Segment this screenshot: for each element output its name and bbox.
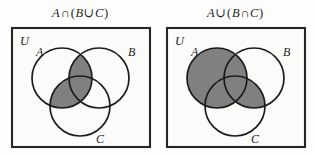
venn-diagram-figure: A∩(B∪C) [0, 0, 316, 154]
title-paren-close: ) [104, 6, 109, 20]
venn-canvas-left: U A B C [10, 26, 152, 149]
title-operator-union: ∪ [83, 6, 95, 20]
panel-title-right: A∪(B∩C) [207, 0, 264, 26]
title-term-a: A [52, 6, 60, 20]
label-universe: U [20, 34, 30, 48]
panel-title-left: A∩(B∪C) [52, 0, 109, 26]
venn-canvas-right: U A B C [165, 26, 307, 149]
label-c: C [96, 132, 105, 146]
title-term-a: A [207, 6, 215, 20]
title-term-c: C [95, 6, 104, 20]
title-term-b: B [232, 6, 240, 20]
venn-panel-left: A∩(B∪C) [8, 0, 153, 154]
title-term-c: C [250, 6, 259, 20]
title-operator-union: ∪ [215, 6, 227, 20]
label-c: C [251, 132, 260, 146]
title-operator-intersection: ∩ [60, 6, 70, 20]
venn-panel-right: A∪(B∩C) [163, 0, 308, 154]
title-paren-close: ) [259, 6, 264, 20]
label-b: B [283, 45, 291, 59]
label-a: A [35, 45, 44, 59]
title-operator-intersection: ∩ [240, 6, 250, 20]
label-b: B [128, 45, 136, 59]
label-a: A [190, 45, 199, 59]
label-universe: U [175, 34, 185, 48]
